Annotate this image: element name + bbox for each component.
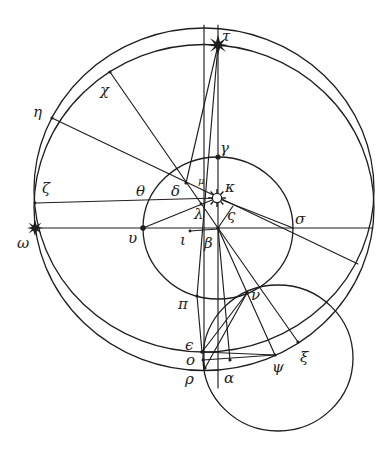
sun-icon-kappa xyxy=(208,189,226,207)
label-chi: χ xyxy=(99,81,110,99)
point-rho xyxy=(203,366,206,369)
label-xi: ξ xyxy=(300,348,309,366)
point-xi xyxy=(296,340,299,343)
line-nu-rho xyxy=(205,293,247,368)
label-theta: θ xyxy=(136,182,145,200)
point-pi xyxy=(195,294,198,297)
label-psi: ψ xyxy=(272,358,284,376)
label-lambda: λ xyxy=(193,205,204,223)
diagram-canvas: τ χ η γ μ κ δ θ ζ λ ς ω υ ι β σ π ν ϵ ο … xyxy=(0,0,392,455)
label-zeta: ζ xyxy=(42,179,51,197)
point-eta xyxy=(50,116,53,119)
label-sigma: σ xyxy=(295,210,306,228)
label-final-sigma: ς xyxy=(227,206,236,224)
point-delta xyxy=(184,181,187,184)
point-iota xyxy=(189,230,192,233)
label-nu: ν xyxy=(251,286,260,304)
point-zeta xyxy=(34,202,37,205)
label-gamma: γ xyxy=(220,139,229,157)
label-rho: ρ xyxy=(184,370,194,388)
point-alpha xyxy=(228,358,231,361)
label-eta: η xyxy=(33,103,42,121)
point-epsilon xyxy=(200,350,204,354)
point-chi xyxy=(108,70,111,73)
label-mu: μ xyxy=(198,175,205,186)
line-pi-epsilon xyxy=(197,296,202,352)
label-iota: ι xyxy=(180,231,186,249)
line-tau-delta xyxy=(186,45,218,183)
point-psi xyxy=(273,353,276,356)
label-pi: π xyxy=(177,295,189,313)
line-zeta-kappa xyxy=(35,198,217,203)
geometric-diagram: τ χ η γ μ κ δ θ ζ λ ς ω υ ι β σ π ν ϵ ο … xyxy=(0,0,392,455)
line-upsilon-kappa xyxy=(143,198,217,228)
line-tau-pi xyxy=(197,45,218,296)
line-beta-alpha xyxy=(218,228,230,360)
label-omega: ω xyxy=(17,234,29,252)
label-tau: τ xyxy=(222,27,231,45)
label-upsilon: υ xyxy=(128,229,137,247)
label-kappa: κ xyxy=(224,178,235,196)
label-omicron: ο xyxy=(186,351,195,369)
point-upsilon xyxy=(140,225,146,231)
label-beta: β xyxy=(203,234,213,252)
point-beta xyxy=(216,226,220,230)
label-delta: δ xyxy=(171,182,180,200)
point-omicron xyxy=(202,359,205,362)
label-alpha: α xyxy=(224,369,234,387)
point-nu xyxy=(245,291,249,295)
